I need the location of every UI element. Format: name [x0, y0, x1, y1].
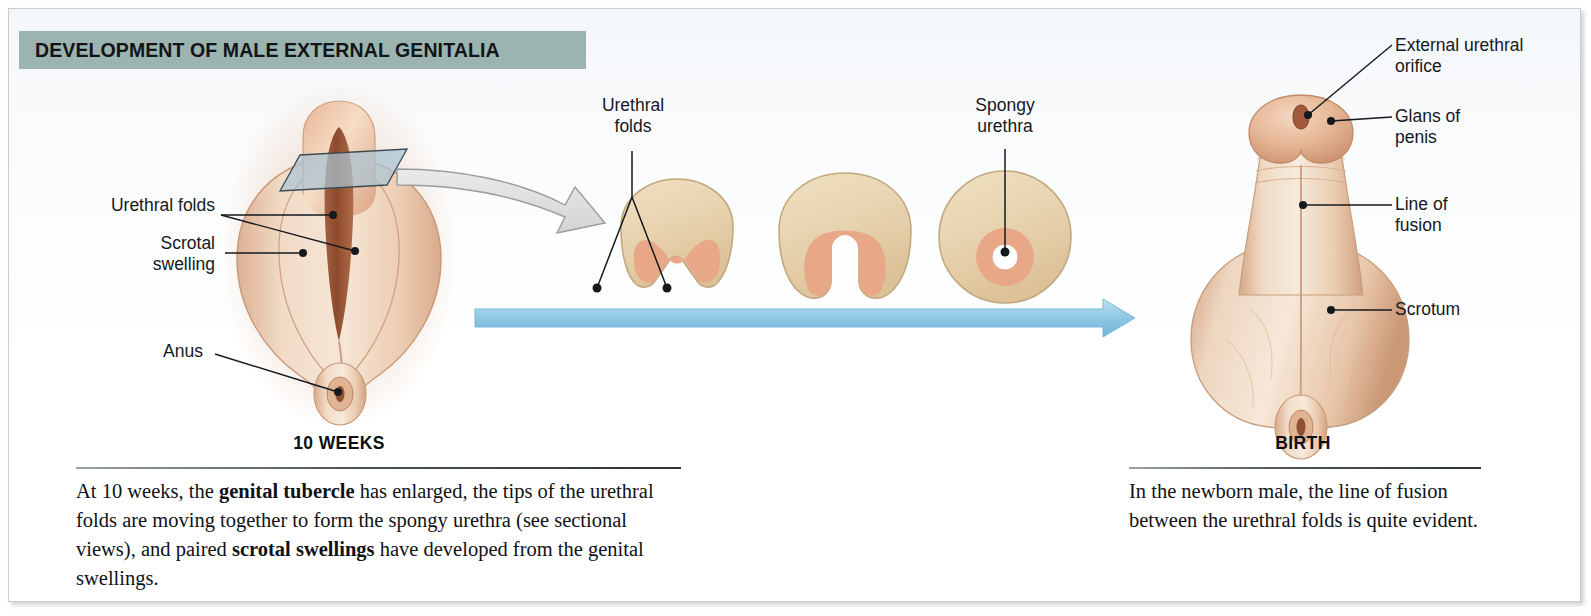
- page-title: DEVELOPMENT OF MALE EXTERNAL GENITALIA: [19, 39, 500, 62]
- label-external-urethral-orifice: External urethral orifice: [1395, 35, 1581, 78]
- title-banner: DEVELOPMENT OF MALE EXTERNAL GENITALIA: [19, 31, 586, 69]
- ten-week-figure: [215, 79, 457, 429]
- figure-card: DEVELOPMENT OF MALE EXTERNAL GENITALIA U…: [8, 8, 1581, 602]
- figure-page: DEVELOPMENT OF MALE EXTERNAL GENITALIA U…: [0, 0, 1591, 616]
- label-spongy-urethra: Spongy urethra: [947, 95, 1063, 138]
- right-caption-rule: [1129, 467, 1481, 469]
- urethral-plate-2: [804, 231, 886, 296]
- label-urethral-folds: Urethral folds: [8, 195, 215, 216]
- label-line-of-fusion: Line of fusion: [1395, 194, 1581, 237]
- stage-label-ten-weeks: 10 WEEKS: [241, 433, 437, 454]
- label-scrotal-swelling: Scrotal swelling: [8, 233, 215, 276]
- label-glans-of-penis: Glans of penis: [1395, 106, 1581, 149]
- label-anus: Anus: [8, 341, 203, 362]
- birth-figure: [1191, 45, 1409, 459]
- label-scrotum: Scrotum: [1395, 299, 1581, 320]
- stage-label-birth: BIRTH: [1205, 433, 1401, 454]
- left-caption-rule: [76, 467, 681, 469]
- cross-section-1: [621, 179, 733, 287]
- left-caption-text: At 10 weeks, the genital tubercle has en…: [76, 477, 691, 593]
- cross-section-2: [779, 173, 911, 298]
- label-urethral-folds-section: Urethral folds: [575, 95, 691, 138]
- right-caption-text: In the newborn male, the line of fusion …: [1129, 477, 1499, 535]
- leader-external-urethral-orifice: [1308, 45, 1392, 115]
- progress-arrow: [475, 299, 1135, 337]
